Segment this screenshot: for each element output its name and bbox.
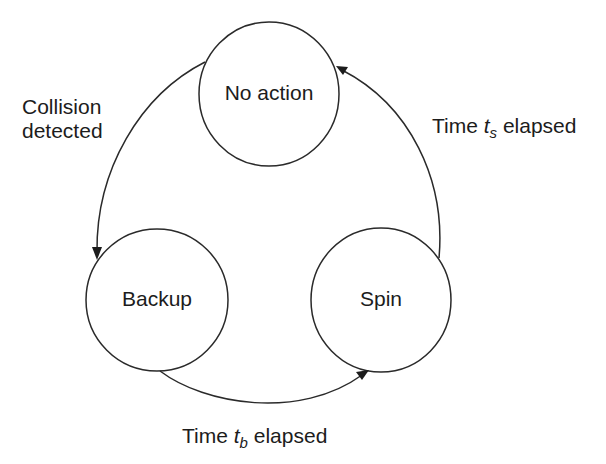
label-prefix: Time xyxy=(182,424,234,447)
label-suffix: elapsed xyxy=(248,424,327,447)
label-subscript: b xyxy=(240,434,248,451)
state-backup: Backup xyxy=(86,229,228,371)
transition-no-action-to-backup: Collision detected xyxy=(22,62,205,260)
state-label: No action xyxy=(225,81,314,104)
label-prefix: Time xyxy=(432,114,484,137)
transition-label: Time tb elapsed xyxy=(182,424,327,451)
state-spin: Spin xyxy=(311,228,451,372)
transition-label-line1: Collision xyxy=(22,95,101,118)
state-label: Spin xyxy=(360,287,402,310)
transition-backup-to-spin: Time tb elapsed xyxy=(160,370,369,451)
arrowhead-icon xyxy=(336,66,348,75)
state-no-action: No action xyxy=(199,22,339,166)
transition-label-line2: detected xyxy=(22,119,103,142)
label-suffix: elapsed xyxy=(497,114,576,137)
transition-label: Time ts elapsed xyxy=(432,114,576,141)
transition-arc xyxy=(342,70,440,258)
state-label: Backup xyxy=(122,287,192,310)
transition-arc xyxy=(97,62,205,252)
state-diagram: No action Backup Spin Collision detected… xyxy=(0,0,606,464)
transition-arc xyxy=(160,371,362,403)
